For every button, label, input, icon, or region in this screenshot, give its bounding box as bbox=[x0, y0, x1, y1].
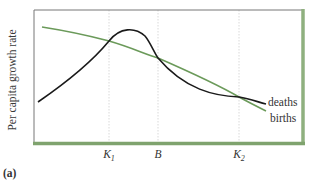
tick-b: B bbox=[154, 148, 161, 160]
births-label: births bbox=[270, 112, 296, 124]
tick-k1: K1 bbox=[103, 148, 115, 163]
tick-k2: K2 bbox=[233, 148, 245, 163]
y-axis-label: Per capita growth rate bbox=[3, 15, 21, 145]
deaths-label: deaths bbox=[268, 96, 297, 108]
births-curve bbox=[42, 27, 266, 111]
panel-label: (a) bbox=[3, 167, 16, 179]
